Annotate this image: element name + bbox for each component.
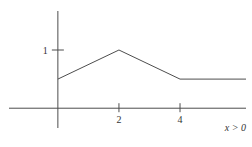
axes	[9, 11, 246, 128]
x-tick-label: 4	[178, 114, 183, 125]
function-plot-figure: 241 x > 0	[0, 0, 252, 147]
axis-tick-labels: 241	[43, 45, 183, 125]
y-tick-label: 1	[43, 45, 48, 56]
axis-ticks	[52, 50, 180, 112]
x-domain-annotation: x > 0	[224, 122, 246, 133]
x-tick-label: 2	[116, 114, 121, 125]
function-curve	[58, 50, 246, 79]
plot-svg: 241 x > 0	[0, 0, 252, 147]
